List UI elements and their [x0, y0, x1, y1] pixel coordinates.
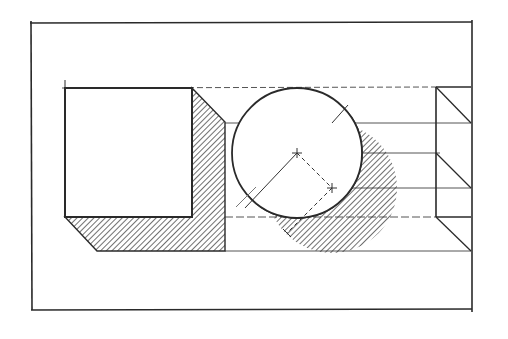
- side-view: [436, 87, 471, 251]
- cube: [65, 80, 192, 217]
- technical-drawing: Shadow construction: cube and sphere wit…: [0, 0, 508, 339]
- drawing-canvas: [0, 0, 508, 339]
